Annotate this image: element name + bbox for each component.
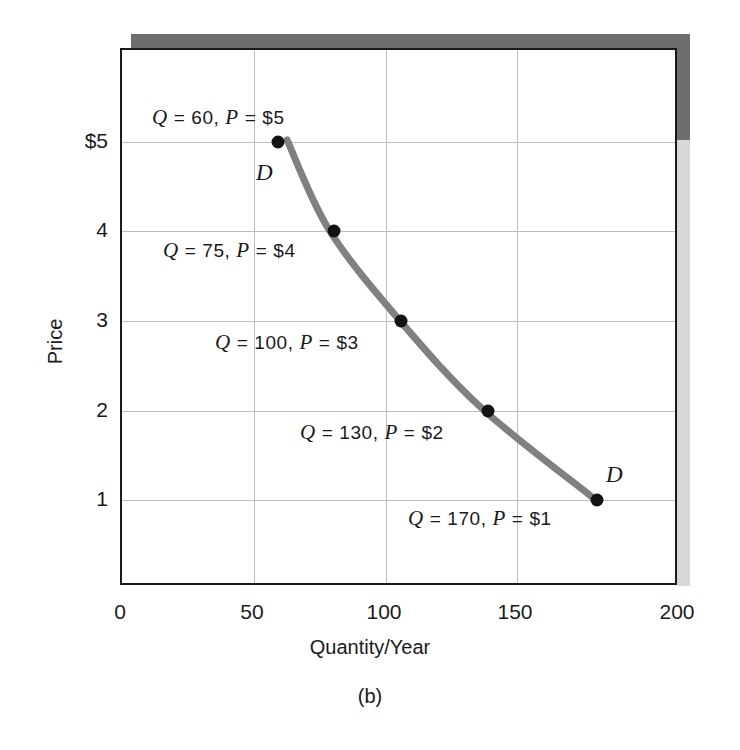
x-tick-50: 50 xyxy=(240,600,263,624)
annotation-q130-eq1: = xyxy=(322,422,334,443)
data-point-q130 xyxy=(482,405,495,418)
annotation-q170-q-value: 170, xyxy=(447,508,486,529)
annotation-q60-eq1: = xyxy=(174,107,186,128)
annotation-q170-q-symbol: Q xyxy=(408,506,424,530)
annotation-q75-eq1: = xyxy=(185,240,197,261)
y-tick-2: 2 xyxy=(96,398,108,422)
annotation-q130-q-symbol: Q xyxy=(300,420,316,444)
annotation-q75-p-value: $4 xyxy=(273,240,295,261)
annotation-q60-p-value: $5 xyxy=(262,107,284,128)
annotation-q170-p-value: $1 xyxy=(529,508,551,529)
y-axis-title: Price xyxy=(44,282,67,402)
x-tick-0: 0 xyxy=(114,600,126,624)
data-point-q60 xyxy=(272,136,285,149)
x-tick-100: 100 xyxy=(366,600,401,624)
y-tick-1: 1 xyxy=(96,487,108,511)
annotation-q130-eq2: = xyxy=(404,422,416,443)
x-tick-150: 150 xyxy=(497,600,532,624)
annotation-q100-p-value: $3 xyxy=(336,332,358,353)
x-axis-title: Quantity/Year xyxy=(0,636,740,659)
data-point-q170 xyxy=(591,494,604,507)
annotation-q60-p-symbol: P xyxy=(225,105,238,129)
annotation-q75-p-symbol: P xyxy=(236,238,249,262)
frame-shadow-top xyxy=(131,34,690,48)
annotation-q100-eq1: = xyxy=(237,332,249,353)
annotation-q75: Q = 75, P = $4 xyxy=(163,238,296,263)
annotation-q170-eq1: = xyxy=(430,508,442,529)
annotation-q170-eq2: = xyxy=(512,508,524,529)
y-tick-4: 4 xyxy=(96,218,108,242)
y-tick-5: $5 xyxy=(85,129,108,153)
annotation-q170: Q = 170, P = $1 xyxy=(408,506,552,531)
annotation-q170-p-symbol: P xyxy=(493,506,506,530)
annotation-q100: Q = 100, P = $3 xyxy=(215,330,359,355)
frame-shadow-right-fade xyxy=(677,140,690,586)
annotation-q100-q-value: 100, xyxy=(254,332,293,353)
annotation-q75-q-symbol: Q xyxy=(163,238,179,262)
annotation-q100-p-symbol: P xyxy=(300,330,313,354)
annotation-q60-q-value: 60, xyxy=(191,107,219,128)
y-tick-3: 3 xyxy=(96,308,108,332)
annotation-q130-p-value: $2 xyxy=(421,422,443,443)
annotation-q60-eq2: = xyxy=(245,107,257,128)
frame-shadow-right xyxy=(677,34,690,140)
curve-label-d-top: D xyxy=(256,160,273,186)
demand-curve-figure: D D Q = 60, P = $5 Q = 75, P = $4 Q = 10… xyxy=(0,0,740,750)
annotation-q75-q-value: 75, xyxy=(202,240,230,261)
data-point-q75 xyxy=(328,225,341,238)
annotation-q130: Q = 130, P = $2 xyxy=(300,420,444,445)
data-point-q100 xyxy=(395,315,408,328)
annotation-q75-eq2: = xyxy=(256,240,268,261)
annotation-q60-q-symbol: Q xyxy=(152,105,168,129)
annotation-q100-q-symbol: Q xyxy=(215,330,231,354)
curve-label-d-bottom: D xyxy=(606,462,623,488)
panel-caption: (b) xyxy=(0,685,740,708)
x-tick-200: 200 xyxy=(659,600,694,624)
annotation-q130-p-symbol: P xyxy=(385,420,398,444)
annotation-q100-eq2: = xyxy=(319,332,331,353)
annotation-q130-q-value: 130, xyxy=(339,422,378,443)
annotation-q60: Q = 60, P = $5 xyxy=(152,105,285,130)
